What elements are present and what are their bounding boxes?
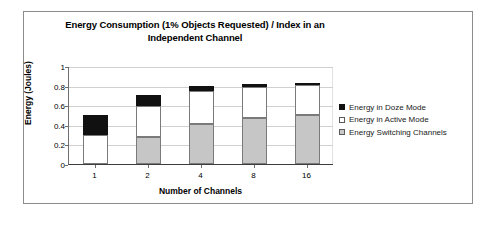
- plot-area: [68, 67, 333, 165]
- x-axis-title: Number of Channels: [68, 186, 333, 196]
- bar-segment[interactable]: [189, 124, 214, 164]
- bar-group[interactable]: [136, 67, 161, 164]
- legend-label: Energy in Active Mode: [349, 115, 429, 124]
- y-axis-title: Energy (Joules): [23, 41, 33, 145]
- legend-label: Energy in Doze Mode: [349, 103, 426, 112]
- bar-segment[interactable]: [136, 137, 161, 164]
- bar-segment[interactable]: [295, 85, 320, 115]
- x-tick-label: 1: [92, 171, 96, 180]
- bar-segment[interactable]: [242, 118, 267, 164]
- y-tick-label: 0.4: [43, 121, 65, 130]
- bar-segment[interactable]: [83, 115, 108, 135]
- bar-group[interactable]: [83, 67, 108, 164]
- bar-segment[interactable]: [189, 86, 214, 91]
- x-tick-label: 4: [198, 171, 202, 180]
- legend-item[interactable]: Energy in Active Mode: [339, 114, 469, 127]
- x-tick-label: 2: [145, 171, 149, 180]
- bar-segment[interactable]: [189, 91, 214, 124]
- chart-figure: Energy Consumption (1% Objects Requested…: [0, 0, 499, 227]
- bar-group[interactable]: [295, 67, 320, 164]
- legend-swatch-icon: [339, 129, 345, 135]
- bar-group[interactable]: [189, 67, 214, 164]
- bar-segment[interactable]: [295, 83, 320, 85]
- y-tick-label: 1: [43, 63, 65, 72]
- y-tick-label: 0.8: [43, 82, 65, 91]
- bars-layer: [69, 67, 333, 164]
- legend-item[interactable]: Energy in Doze Mode: [339, 101, 469, 114]
- bar-segment[interactable]: [83, 135, 108, 164]
- legend-item[interactable]: Energy Switching Channels: [339, 126, 469, 139]
- y-tick-label: 0.2: [43, 141, 65, 150]
- bar-segment[interactable]: [295, 115, 320, 164]
- y-tick-label: 0.6: [43, 102, 65, 111]
- legend-label: Energy Switching Channels: [349, 128, 447, 137]
- chart-legend: Energy in Doze ModeEnergy in Active Mode…: [339, 101, 469, 139]
- x-tick-label: 8: [251, 171, 255, 180]
- bar-segment[interactable]: [242, 84, 267, 87]
- x-tick-label: 16: [302, 171, 311, 180]
- legend-swatch-icon: [339, 104, 345, 110]
- bar-segment[interactable]: [136, 95, 161, 106]
- x-tick-mark: [201, 165, 202, 168]
- y-axis-ticks: 00.20.40.60.81: [40, 67, 65, 165]
- bar-segment[interactable]: [242, 87, 267, 118]
- legend-swatch-icon: [339, 117, 345, 123]
- bar-segment[interactable]: [136, 106, 161, 136]
- y-tick-mark: [65, 165, 68, 166]
- chart-title-line-1: Energy Consumption (1% Objects Requested…: [50, 19, 340, 32]
- y-tick-label: 0: [43, 161, 65, 170]
- x-tick-mark: [254, 165, 255, 168]
- x-tick-mark: [307, 165, 308, 168]
- x-tick-mark: [95, 165, 96, 168]
- chart-title-line-2: Independent Channel: [50, 32, 340, 45]
- bar-group[interactable]: [242, 67, 267, 164]
- chart-title: Energy Consumption (1% Objects Requested…: [50, 19, 340, 44]
- x-tick-mark: [148, 165, 149, 168]
